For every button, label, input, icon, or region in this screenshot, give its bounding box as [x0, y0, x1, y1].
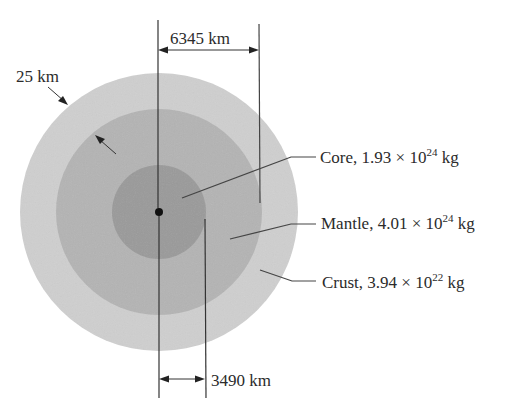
mantle-unit: kg: [454, 214, 475, 233]
mantle-label-text: Mantle, 4.01 × 10: [321, 214, 443, 233]
crust-label: Crust, 3.94 × 1022 kg: [322, 274, 464, 291]
arrowhead-right-icon: [195, 376, 205, 383]
arrowhead-left-icon: [158, 47, 168, 54]
arrowhead-right-icon: [249, 47, 259, 54]
core-label-text: Core, 1.93 × 10: [320, 148, 426, 167]
core-unit: kg: [437, 148, 458, 167]
core-label: Core, 1.93 × 1024 kg: [320, 149, 459, 166]
core-exponent: 24: [426, 146, 437, 158]
crust-unit: kg: [443, 273, 464, 292]
mantle-exponent: 24: [443, 212, 454, 224]
crust-thickness-label: 25 km: [16, 68, 59, 85]
mantle-radius-label: 6345 km: [170, 30, 230, 47]
center-point: [155, 208, 163, 216]
core-radius-label: 3490 km: [211, 372, 271, 389]
crust-label-text: Crust, 3.94 × 10: [322, 273, 432, 292]
mantle-label: Mantle, 4.01 × 1024 kg: [321, 215, 475, 232]
planet-diagram: [0, 0, 532, 410]
arrowhead-left-icon: [159, 376, 169, 383]
crust-exponent: 22: [432, 271, 443, 283]
